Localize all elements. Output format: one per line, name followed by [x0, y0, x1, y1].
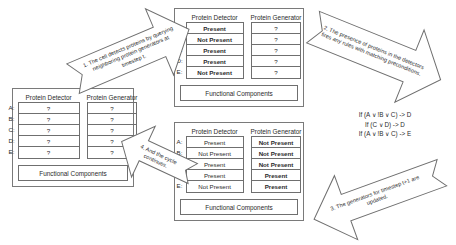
step-3-arrow: 3. The generators for timestep t+1 are u… [300, 138, 456, 245]
column-header: Protein Generator [251, 127, 302, 136]
column-header: Protein Generator [251, 13, 302, 22]
generator-cell: ? [252, 23, 301, 34]
generator-cell: ? [252, 34, 301, 45]
detector-cell: ? [19, 114, 79, 125]
generator-cell: Present [252, 170, 301, 181]
row-label: E: [9, 146, 18, 157]
detector-cell: ? [19, 125, 79, 136]
functional-components-box: Functional Components [180, 85, 298, 101]
detector-group: A: B: C: D: E: Protein Detector ? ? ? ? … [9, 93, 80, 159]
generator-cell: Present [252, 181, 301, 192]
column-header: Protein Detector [18, 93, 80, 102]
row-label: D: [9, 135, 18, 146]
column-body: Not Present Not Present Not Present Pres… [251, 136, 302, 193]
step-2-arrow: 2. The presence of proteins in the detec… [296, 0, 456, 118]
rule-item: If (A ∨ !B ∨ C) -> D [330, 110, 440, 120]
column-header: Protein Detector [186, 127, 244, 136]
column-header: Protein Detector [186, 13, 244, 22]
column-body: ? ? ? ? ? [18, 102, 80, 159]
detector-cell: Not Present [187, 67, 243, 78]
rule-item: If (C ∨ D) -> D [330, 120, 440, 130]
detector-cell: ? [19, 103, 79, 114]
row-label-column: A: B: C: D: E: [9, 93, 18, 159]
protein-generator-column: Protein Generator ? ? ? ? ? [251, 13, 302, 79]
row-label: C: [9, 124, 18, 135]
column-body: ? ? ? ? ? [251, 22, 302, 79]
detector-cell: Present [187, 23, 243, 34]
rule-item: If (A ∨ !B ∨ C) -> E [330, 129, 440, 139]
detector-cell: ? [19, 147, 79, 158]
generator-cell: Not Present [252, 148, 301, 159]
generator-cell: ? [252, 45, 301, 56]
protein-generator-column: Protein Generator Not Present Not Presen… [251, 127, 302, 193]
row-label: A: [9, 102, 18, 113]
generator-cell: Not Present [252, 137, 301, 148]
protein-detector-column: Protein Detector ? ? ? ? ? [18, 93, 80, 159]
generator-cell: ? [252, 67, 301, 78]
generator-cell: Not Present [252, 159, 301, 170]
functional-components-box: Functional Components [180, 199, 298, 215]
row-label: B: [9, 113, 18, 124]
rule-list: If (A ∨ !B ∨ C) -> D If (C ∨ D) -> D If … [330, 110, 440, 139]
generator-cell: ? [252, 56, 301, 67]
detector-cell: ? [19, 136, 79, 147]
detector-cell: Not Present [187, 181, 243, 192]
